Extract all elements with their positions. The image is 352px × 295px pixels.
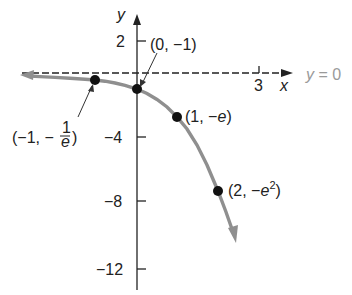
x-axis-label: x — [279, 77, 289, 94]
y-axis-label: y — [116, 6, 126, 23]
label-point-neg1: (−1, − 1 e ) — [12, 119, 77, 150]
x-tick-label-3: 3 — [254, 77, 263, 94]
svg-text:(−1, −: (−1, − — [12, 129, 54, 146]
curve-left-arrow-icon — [20, 70, 34, 80]
svg-text:e: e — [61, 133, 70, 150]
label-point-0: (0, −1) — [150, 36, 197, 53]
x-axis-arrow-icon — [281, 69, 293, 77]
svg-text:): ) — [72, 129, 77, 146]
asymptote-label: y = 0 — [305, 66, 341, 83]
leader-arrow-icon — [140, 79, 146, 87]
label-point-2: (2, −e2) — [228, 179, 281, 199]
point-2 — [213, 186, 223, 196]
y-tick-label-neg4: −4 — [104, 129, 122, 146]
point-neg1 — [90, 75, 100, 85]
curve-down-arrow-icon — [228, 225, 238, 243]
y-axis-arrow-icon — [133, 14, 141, 25]
exponential-graph: y 2 −4 −8 −12 3 x y = 0 (0, −1) (1, −e) … — [0, 0, 352, 295]
leader-arrow-icon — [88, 84, 94, 92]
y-tick-label-neg12: −12 — [96, 261, 123, 278]
leader-point-0 — [142, 53, 157, 84]
point-1 — [172, 112, 182, 122]
y-tick-label-2: 2 — [116, 33, 125, 50]
curve — [30, 76, 233, 232]
y-tick-label-neg8: −8 — [104, 193, 122, 210]
label-point-1: (1, −e) — [185, 108, 232, 125]
